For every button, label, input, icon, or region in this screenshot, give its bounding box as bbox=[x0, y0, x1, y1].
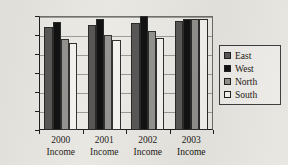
bar-group bbox=[126, 16, 170, 130]
legend-label: West bbox=[235, 64, 254, 74]
legend-label: East bbox=[235, 51, 251, 61]
bar-group bbox=[83, 16, 127, 130]
bar-south-1 bbox=[112, 40, 120, 130]
bar-west-0 bbox=[53, 22, 61, 130]
legend-swatch-icon bbox=[224, 52, 231, 59]
x-axis-label-metric: Income bbox=[161, 146, 221, 158]
x-axis-label: 2003Income bbox=[161, 134, 221, 158]
legend-item-north[interactable]: North bbox=[224, 75, 276, 88]
bar-south-0 bbox=[69, 43, 77, 130]
bar-east-0 bbox=[44, 27, 52, 130]
bar-north-3 bbox=[191, 19, 199, 130]
bar-east-1 bbox=[88, 25, 96, 130]
x-axis-tick bbox=[213, 130, 214, 134]
bar-west-2 bbox=[140, 16, 148, 130]
bar-north-1 bbox=[104, 35, 112, 130]
legend-item-west[interactable]: West bbox=[224, 62, 276, 75]
legend-item-south[interactable]: South bbox=[224, 88, 276, 101]
chart-screenshot: 05,00010,00015,00020,00025,00030,000 200… bbox=[0, 0, 288, 165]
legend-item-east[interactable]: East bbox=[224, 49, 276, 62]
legend-swatch-icon bbox=[224, 78, 231, 85]
bar-west-1 bbox=[96, 19, 104, 130]
legend-swatch-icon bbox=[224, 65, 231, 72]
x-axis-label-year: 2000 bbox=[51, 135, 70, 145]
x-axis-label-year: 2001 bbox=[95, 135, 114, 145]
bar-group bbox=[170, 16, 214, 130]
chart-legend: EastWestNorthSouth bbox=[219, 45, 281, 105]
bar-north-2 bbox=[148, 31, 156, 130]
bar-south-3 bbox=[199, 19, 207, 130]
legend-swatch-icon bbox=[224, 91, 231, 98]
x-axis-label-year: 2002 bbox=[138, 135, 157, 145]
legend-label: South bbox=[235, 90, 257, 100]
bar-north-0 bbox=[61, 39, 69, 130]
bar-east-2 bbox=[131, 23, 139, 130]
x-axis-label-year: 2003 bbox=[182, 135, 201, 145]
bar-west-3 bbox=[183, 19, 191, 130]
bar-east-3 bbox=[175, 21, 183, 130]
legend-label: North bbox=[235, 77, 257, 87]
bar-south-2 bbox=[156, 38, 164, 130]
bar-group bbox=[39, 16, 83, 130]
